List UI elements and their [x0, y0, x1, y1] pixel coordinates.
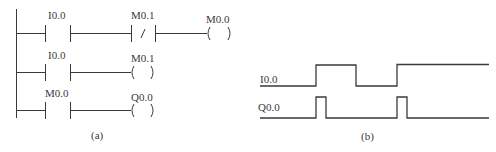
label-rung3-coil: Q0.0: [131, 91, 153, 103]
signal-label-q0-0: Q0.0: [258, 101, 280, 113]
label-rung1-coil: M0.0: [206, 13, 230, 25]
label-rung2-contact: I0.0: [48, 49, 66, 61]
label-rung2-coil: M0.1: [131, 52, 155, 64]
waveform-i0-0: [260, 65, 489, 87]
rung-1: [17, 25, 231, 42]
label-rung1-nc-contact: M0.1: [131, 9, 155, 21]
waveform-q0-0: [260, 97, 489, 118]
no-contact-i0-0-rung2: [46, 64, 71, 81]
ladder-labels: I0.0 M0.1 M0.0 I0.0 M0.1 M0.0 Q0.0 (a): [45, 9, 230, 142]
coil-q0-0: [132, 104, 153, 117]
signal-label-i0-0: I0.0: [260, 73, 278, 85]
label-rung1-contact: I0.0: [48, 9, 66, 21]
timing-diagram: [260, 65, 489, 119]
coil-m0-0: [208, 27, 230, 40]
caption-a: (a): [91, 129, 104, 142]
no-contact-i0-0-rung1: [46, 25, 71, 42]
nc-slash: [141, 29, 145, 38]
ladder-diagram: [17, 9, 231, 119]
no-contact-m0-0: [46, 102, 71, 119]
label-rung3-contact: M0.0: [45, 87, 69, 99]
nc-contact-m0-1: [132, 25, 156, 42]
rung-2: [17, 64, 154, 81]
caption-b: (b): [361, 130, 374, 143]
ladder-and-timing-figure: I0.0 M0.1 M0.0 I0.0 M0.1 M0.0 Q0.0 (a) I…: [0, 0, 496, 152]
rung-3: [17, 102, 154, 119]
coil-m0-1: [132, 66, 153, 79]
